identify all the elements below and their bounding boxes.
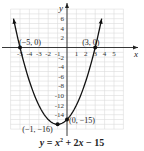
caption-eq: = xyxy=(44,137,55,148)
caption-rest1: + 2 xyxy=(63,137,79,148)
svg-text:(−5, 0): (−5, 0) xyxy=(19,38,41,47)
svg-text:-2: -2 xyxy=(45,50,51,58)
svg-text:(−1, −16): (−1, −16) xyxy=(22,125,53,134)
svg-text:2: 2 xyxy=(61,34,65,42)
svg-text:-14: -14 xyxy=(55,111,65,119)
svg-text:6: 6 xyxy=(61,15,65,23)
svg-text:-12: -12 xyxy=(55,102,65,110)
svg-text:(3, 0): (3, 0) xyxy=(82,38,100,47)
svg-text:4: 4 xyxy=(61,25,65,33)
svg-text:x: x xyxy=(133,49,138,59)
svg-text:1: 1 xyxy=(75,50,79,58)
svg-text:-10: -10 xyxy=(55,92,65,100)
parabola-chart: xy -5-4-3-2-112345642-2-4-6-8-10-12-14 (… xyxy=(0,0,144,151)
svg-text:4: 4 xyxy=(103,50,107,58)
svg-text:-3: -3 xyxy=(36,50,42,58)
svg-text:-8: -8 xyxy=(58,82,64,90)
svg-text:-4: -4 xyxy=(58,63,64,71)
svg-text:5: 5 xyxy=(112,50,116,58)
svg-text:-6: -6 xyxy=(58,73,64,81)
caption-rest2: − 15 xyxy=(84,137,105,148)
svg-text:y: y xyxy=(58,3,63,13)
svg-text:2: 2 xyxy=(84,50,88,58)
svg-text:-4: -4 xyxy=(26,50,32,58)
svg-text:-2: -2 xyxy=(58,54,64,62)
svg-text:(0, −15): (0, −15) xyxy=(69,116,95,125)
equation-caption: y = x2 + 2x − 15 xyxy=(0,137,144,148)
